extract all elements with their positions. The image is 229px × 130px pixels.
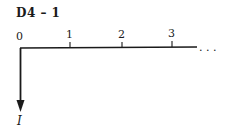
tick-label-0: 0: [16, 30, 23, 43]
continuation-dots: . . .: [199, 41, 216, 54]
cash-flow-diagram: 0 1 2 3 . . . I: [0, 0, 229, 130]
arrow-label-investment: I: [16, 114, 22, 128]
arrowhead-down-icon: [17, 100, 25, 112]
tick-label-3: 3: [168, 27, 175, 40]
timeline-axis: [20, 47, 197, 48]
tick-label-2: 2: [118, 28, 125, 41]
tick-label-1: 1: [66, 28, 73, 41]
